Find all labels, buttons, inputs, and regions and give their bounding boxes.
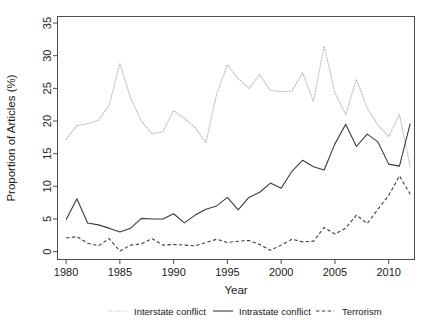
x-tick-label: 1995 (215, 266, 239, 278)
y-tick-label: 5 (41, 216, 53, 222)
y-tick-label: 20 (41, 115, 53, 127)
x-tick-label: 2010 (376, 266, 400, 278)
y-tick-label: 15 (41, 148, 53, 160)
y-axis-tick-labels: 05101520253035 (41, 17, 53, 255)
x-tick-label: 2005 (323, 266, 347, 278)
x-axis-tick-labels: 1980198519901995200020052010 (54, 266, 401, 278)
x-tick-label: 1980 (54, 266, 78, 278)
chart-legend: Interstate conflict Intrastate conflict … (108, 306, 382, 317)
x-tick-label: 2000 (269, 266, 293, 278)
legend-label-interstate-conflict: Interstate conflict (134, 306, 206, 317)
y-tick-label: 10 (41, 180, 53, 192)
plot-frame (58, 17, 415, 260)
series-line-intrastate-conflict (66, 124, 410, 232)
line-chart-canvas: 05101520253035 1980198519901995200020052… (0, 0, 432, 326)
x-axis-ticks (66, 260, 389, 265)
x-tick-label: 1985 (108, 266, 132, 278)
y-tick-label: 35 (41, 17, 53, 29)
series-line-interstate-conflict (66, 46, 410, 167)
y-axis-title: Proportion of Articles (%) (5, 74, 17, 201)
legend-label-terrorism: Terrorism (342, 306, 382, 317)
legend-label-intrastate-conflict: Intrastate conflict (239, 306, 311, 317)
chart-figure: 05101520253035 1980198519901995200020052… (0, 0, 432, 326)
y-axis-ticks (53, 23, 58, 252)
x-tick-label: 1990 (161, 266, 185, 278)
y-tick-label: 30 (41, 50, 53, 62)
y-tick-label: 0 (41, 249, 53, 255)
series-line-terrorism (66, 176, 410, 251)
x-axis-title: Year (224, 284, 247, 296)
y-tick-label: 25 (41, 82, 53, 94)
